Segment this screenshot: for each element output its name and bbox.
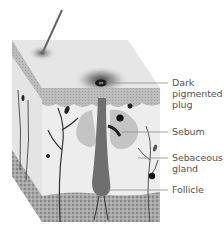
cell: [116, 114, 123, 121]
cell: [149, 173, 155, 179]
skin-cross-section-illustration: [0, 0, 224, 242]
label-follicle: Follicle: [172, 184, 204, 195]
label-dark-pigmented-plug: Dark pigmented plug: [172, 77, 223, 110]
label-sebaceous-gland: Sebaceous gland: [172, 152, 223, 174]
cell: [128, 104, 133, 109]
label-sebum: Sebum: [172, 126, 205, 137]
